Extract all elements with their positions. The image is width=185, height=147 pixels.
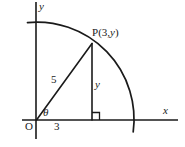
x-axis-label: x [163,105,168,116]
right-angle-marker [92,113,100,121]
theta-angle-label: θ [43,107,48,118]
point-p-label: P(3,y) [92,27,119,38]
y-axis-label: y [39,1,44,12]
hypotenuse-length-label: 5 [51,74,57,85]
opposite-length-label: y [95,79,100,90]
geometry-figure: y x P(3,y) 5 y θ O 3 [0,0,185,147]
origin-label: O [25,121,33,132]
point-p-x-value: 3, [102,26,110,38]
point-p-close-paren: ) [115,26,119,38]
adjacent-length-label: 3 [54,121,60,132]
